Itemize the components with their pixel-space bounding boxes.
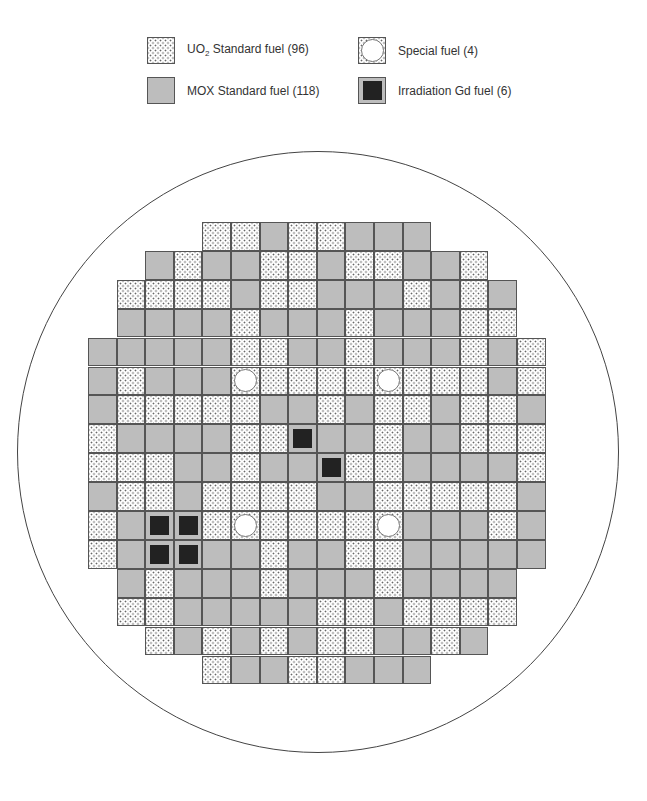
mox-fuel-assembly: [460, 511, 489, 540]
mox-fuel-assembly: [145, 424, 174, 453]
special-fuel-assembly: [231, 367, 260, 396]
uo2-fuel-assembly: [260, 367, 289, 396]
uo2-fuel-assembly: [231, 395, 260, 424]
uo2-fuel-assembly: [403, 598, 432, 627]
legend-item-uo2: UO2 Standard fuel (96): [147, 37, 309, 64]
uo2-fuel-assembly: [88, 453, 117, 482]
uo2-fuel-assembly: [145, 280, 174, 309]
mox-fuel-assembly: [145, 251, 174, 280]
mox-fuel-assembly: [174, 482, 203, 511]
mox-fuel-assembly: [288, 627, 317, 656]
legend-label-uo2: UO2 Standard fuel (96): [187, 42, 309, 58]
uo2-fuel-assembly: [202, 395, 231, 424]
mox-fuel-assembly: [288, 540, 317, 569]
mox-fuel-assembly: [431, 540, 460, 569]
mox-fuel-assembly: [374, 598, 403, 627]
gd-fuel-assembly: [174, 540, 203, 569]
uo2-fuel-assembly: [317, 627, 346, 656]
mox-fuel-assembly: [174, 598, 203, 627]
mox-fuel-assembly: [431, 511, 460, 540]
mox-fuel-assembly: [260, 656, 289, 685]
uo2-fuel-assembly: [460, 482, 489, 511]
uo2-fuel-assembly: [288, 511, 317, 540]
uo2-fuel-assembly: [288, 280, 317, 309]
uo2-fuel-assembly: [202, 482, 231, 511]
mox-fuel-assembly: [431, 453, 460, 482]
uo2-fuel-assembly: [345, 540, 374, 569]
uo2-fuel-assembly: [460, 309, 489, 338]
mox-fuel-assembly: [317, 482, 346, 511]
uo2-fuel-assembly: [117, 482, 146, 511]
uo2-fuel-assembly: [488, 482, 517, 511]
mox-fuel-assembly: [288, 395, 317, 424]
mox-fuel-assembly: [174, 569, 203, 598]
special-fuel-assembly: [374, 367, 403, 396]
uo2-fuel-assembly: [517, 338, 546, 367]
uo2-fuel-assembly: [317, 656, 346, 685]
uo2-fuel-assembly: [345, 309, 374, 338]
mox-swatch-icon: [147, 77, 175, 104]
uo2-fuel-assembly: [117, 367, 146, 396]
mox-fuel-assembly: [403, 309, 432, 338]
mox-fuel-assembly: [202, 453, 231, 482]
mox-fuel-assembly: [145, 367, 174, 396]
uo2-fuel-assembly: [88, 424, 117, 453]
mox-fuel-assembly: [403, 511, 432, 540]
legend-item-mox: MOX Standard fuel (118): [147, 77, 320, 104]
mox-fuel-assembly: [260, 453, 289, 482]
mox-fuel-assembly: [88, 395, 117, 424]
uo2-fuel-assembly: [174, 280, 203, 309]
mox-fuel-assembly: [117, 511, 146, 540]
mox-fuel-assembly: [202, 309, 231, 338]
mox-fuel-assembly: [117, 338, 146, 367]
uo2-fuel-assembly: [288, 222, 317, 251]
mox-fuel-assembly: [345, 222, 374, 251]
uo2-fuel-assembly: [145, 598, 174, 627]
mox-fuel-assembly: [117, 569, 146, 598]
mox-fuel-assembly: [431, 251, 460, 280]
mox-fuel-assembly: [260, 309, 289, 338]
uo2-fuel-assembly: [460, 424, 489, 453]
uo2-fuel-assembly: [288, 251, 317, 280]
uo2-fuel-assembly: [202, 627, 231, 656]
mox-fuel-assembly: [202, 251, 231, 280]
mox-fuel-assembly: [460, 540, 489, 569]
mox-fuel-assembly: [260, 395, 289, 424]
mox-fuel-assembly: [174, 424, 203, 453]
mox-fuel-assembly: [403, 656, 432, 685]
uo2-fuel-assembly: [517, 424, 546, 453]
uo2-fuel-assembly: [317, 511, 346, 540]
special-fuel-swatch-icon: [358, 37, 386, 64]
uo2-fuel-assembly: [403, 395, 432, 424]
mox-fuel-assembly: [288, 309, 317, 338]
gd-fuel-swatch-icon: [358, 77, 386, 104]
uo2-fuel-assembly: [88, 511, 117, 540]
uo2-fuel-assembly: [317, 598, 346, 627]
uo2-fuel-assembly: [288, 482, 317, 511]
mox-fuel-assembly: [288, 453, 317, 482]
mox-fuel-assembly: [288, 598, 317, 627]
uo2-fuel-assembly: [431, 627, 460, 656]
uo2-fuel-assembly: [345, 511, 374, 540]
uo2-fuel-assembly: [317, 367, 346, 396]
uo2-fuel-assembly: [260, 424, 289, 453]
mox-fuel-assembly: [345, 424, 374, 453]
mox-fuel-assembly: [231, 656, 260, 685]
uo2-fuel-assembly: [488, 395, 517, 424]
uo2-fuel-assembly: [260, 511, 289, 540]
mox-fuel-assembly: [345, 656, 374, 685]
uo2-fuel-assembly: [202, 222, 231, 251]
mox-fuel-assembly: [488, 453, 517, 482]
mox-fuel-assembly: [317, 251, 346, 280]
mox-fuel-assembly: [403, 222, 432, 251]
uo2-fuel-assembly: [374, 453, 403, 482]
special-fuel-assembly: [374, 511, 403, 540]
mox-fuel-assembly: [88, 482, 117, 511]
mox-fuel-assembly: [488, 280, 517, 309]
uo2-fuel-assembly: [231, 222, 260, 251]
mox-fuel-assembly: [231, 540, 260, 569]
mox-fuel-assembly: [403, 627, 432, 656]
mox-fuel-assembly: [488, 367, 517, 396]
uo2-fuel-assembly: [117, 453, 146, 482]
mox-fuel-assembly: [431, 338, 460, 367]
